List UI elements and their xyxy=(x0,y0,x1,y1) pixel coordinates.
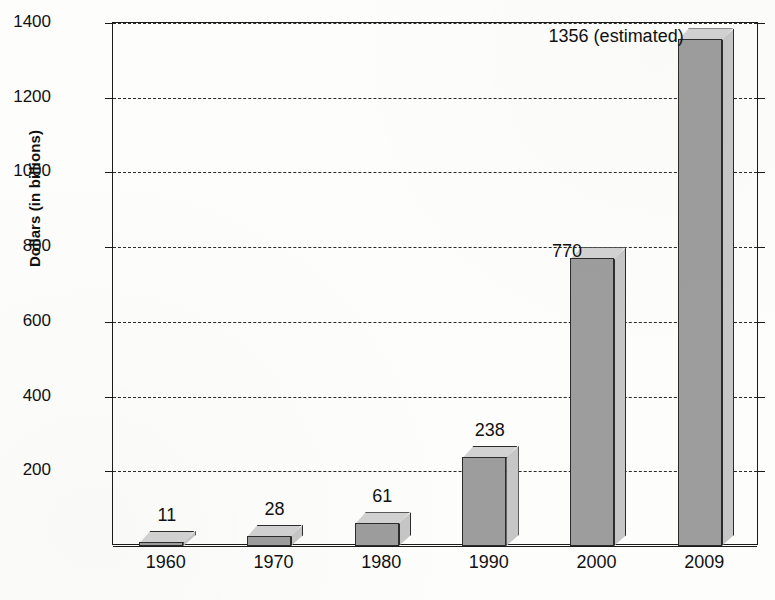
y-axis-tick-mark xyxy=(105,98,113,99)
bar-front-face xyxy=(355,523,399,546)
bar-front-face xyxy=(462,457,506,546)
y-axis-tick-label: 1200 xyxy=(0,87,51,107)
bar-front-face xyxy=(570,258,614,546)
y-axis-tick-mark xyxy=(105,322,113,323)
y-axis-tick-mark-right xyxy=(757,397,765,398)
bar-front-face xyxy=(139,542,183,546)
gridline xyxy=(113,23,757,24)
bar-1980 xyxy=(355,512,410,546)
y-axis-tick-label: 400 xyxy=(0,386,51,406)
gridline xyxy=(113,98,757,99)
bar-front-face xyxy=(247,536,291,546)
x-axis-tick-label-2000: 2000 xyxy=(537,552,657,573)
plot-area: 1128612387701356 (estimated) xyxy=(112,22,758,545)
y-axis-tick-label: 800 xyxy=(0,236,51,256)
bar-1960 xyxy=(139,531,194,546)
gridline xyxy=(113,397,757,398)
bar-value-label-2009: 1356 (estimated) xyxy=(494,26,684,47)
bar-value-label-1960: 11 xyxy=(122,505,212,526)
y-axis-tick-mark xyxy=(105,471,113,472)
x-axis-tick-label-1980: 1980 xyxy=(321,552,441,573)
bar-value-label-1970: 28 xyxy=(230,499,320,520)
y-axis-tick-mark-right xyxy=(757,322,765,323)
bar-2000 xyxy=(570,247,625,546)
x-axis-tick-label-1960: 1960 xyxy=(106,552,226,573)
bar-front-face xyxy=(678,39,722,546)
y-axis-tick-mark-right xyxy=(757,247,765,248)
bar-2009 xyxy=(678,28,733,546)
y-axis-tick-label: 1000 xyxy=(0,161,51,181)
bar-side-face xyxy=(506,446,518,546)
y-axis-tick-mark xyxy=(105,23,113,24)
y-axis-tick-label: 200 xyxy=(0,460,51,480)
y-axis-tick-label: 1400 xyxy=(0,12,51,32)
x-axis-tick-label-1990: 1990 xyxy=(429,552,549,573)
y-axis-tick-label: 600 xyxy=(0,311,51,331)
bar-value-label-2000: 770 xyxy=(492,241,582,262)
y-axis-tick-mark-right xyxy=(757,471,765,472)
x-axis-baseline xyxy=(113,546,757,547)
y-axis-tick-mark xyxy=(105,397,113,398)
y-axis-tick-mark-right xyxy=(757,98,765,99)
y-axis-tick-mark-right xyxy=(757,23,765,24)
gridline xyxy=(113,172,757,173)
gridline xyxy=(113,322,757,323)
gridline xyxy=(113,247,757,248)
bar-side-face xyxy=(722,28,734,546)
y-axis-tick-mark xyxy=(105,247,113,248)
x-axis-tick-label-2009: 2009 xyxy=(644,552,764,573)
x-axis-tick-label-1970: 1970 xyxy=(214,552,334,573)
bar-value-label-1980: 61 xyxy=(337,486,427,507)
bar-value-label-1990: 238 xyxy=(445,420,535,441)
y-axis-tick-mark-right xyxy=(757,172,765,173)
bar-1970 xyxy=(247,525,302,546)
gridline xyxy=(113,471,757,472)
bar-1990 xyxy=(462,446,517,546)
y-axis-tick-mark xyxy=(105,172,113,173)
y-axis-title: Dollars (in billions) xyxy=(26,99,43,299)
bar-side-face xyxy=(614,247,626,546)
chart-page: Dollars (in billions) 200400600800100012… xyxy=(0,0,775,600)
